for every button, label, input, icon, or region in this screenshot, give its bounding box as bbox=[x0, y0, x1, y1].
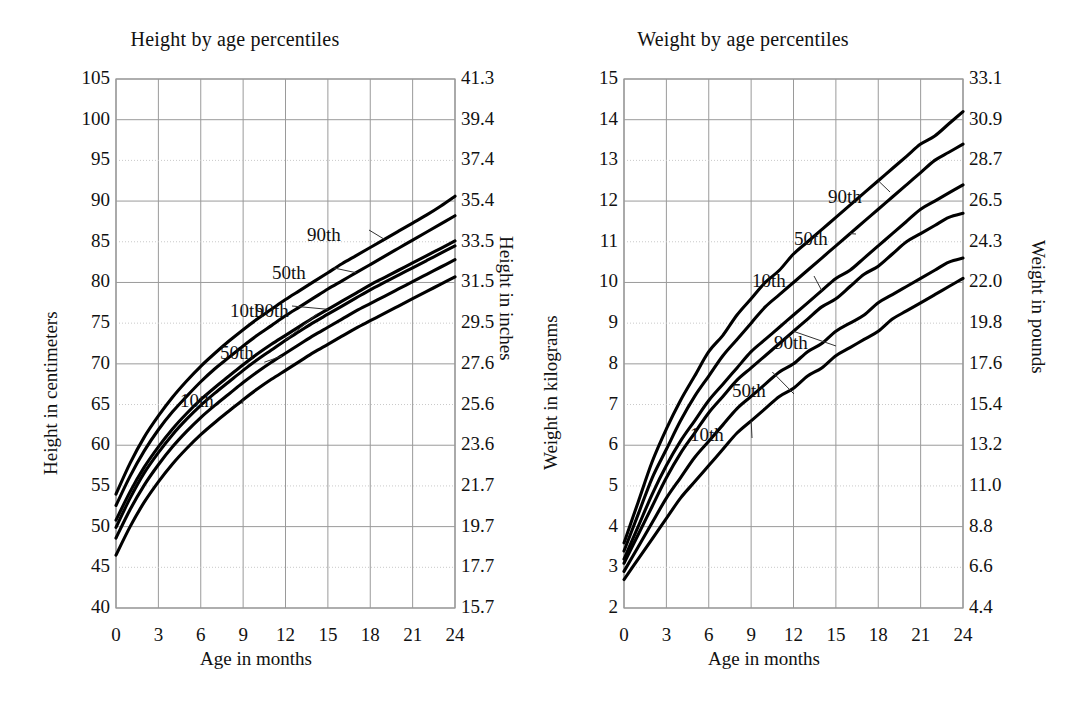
weight-y-left-tick: 3 bbox=[558, 556, 618, 575]
weight-y-left-tick: 2 bbox=[558, 597, 618, 616]
height-y-left-tick: 95 bbox=[50, 149, 110, 168]
height-percentile-label: 90th bbox=[307, 224, 341, 246]
height-y-left-tick: 60 bbox=[50, 434, 110, 453]
height-y-left-tick: 90 bbox=[50, 190, 110, 209]
weight-percentile-label: 10th bbox=[752, 270, 786, 292]
height-y-left-tick: 65 bbox=[50, 394, 110, 413]
weight-y-right-tick: 15.4 bbox=[969, 394, 1039, 413]
height-x-tick: 24 bbox=[430, 625, 480, 644]
height-y-left-tick: 50 bbox=[50, 516, 110, 535]
height-y-left-tick: 105 bbox=[50, 68, 110, 87]
weight-y-left-tick: 13 bbox=[558, 149, 618, 168]
weight-y-right-tick: 4.4 bbox=[969, 597, 1039, 616]
height-percentile-label: 50th bbox=[272, 262, 306, 284]
weight-y-right-tick: 13.2 bbox=[969, 434, 1039, 453]
weight-y-left-tick: 10 bbox=[558, 271, 618, 290]
weight-y-right-tick: 24.3 bbox=[969, 231, 1039, 250]
weight-y-right-tick: 22.0 bbox=[969, 271, 1039, 290]
height-y-left-tick: 40 bbox=[50, 597, 110, 616]
weight-y-left-tick: 4 bbox=[558, 516, 618, 535]
weight-y-right-tick: 26.5 bbox=[969, 190, 1039, 209]
weight-percentile-label: 50th bbox=[732, 380, 766, 402]
weight-y-left-tick: 11 bbox=[558, 231, 618, 250]
weight-y-right-tick: 8.8 bbox=[969, 516, 1039, 535]
weight-y-left-tick: 12 bbox=[558, 190, 618, 209]
weight-x-axis-title: Age in months bbox=[708, 648, 820, 670]
weight-y-right-tick: 28.7 bbox=[969, 149, 1039, 168]
weight-percentile-label: 90th bbox=[774, 332, 808, 354]
weight-chart-panel: Weight by age percentiles Weight in kilo… bbox=[508, 0, 1090, 716]
growth-charts-figure: Height by age percentiles Height in cent… bbox=[0, 0, 1090, 716]
height-y-left-tick: 70 bbox=[50, 353, 110, 372]
height-chart-panel: Height by age percentiles Height in cent… bbox=[0, 0, 545, 716]
weight-y-left-tick: 15 bbox=[558, 68, 618, 87]
weight-y-right-tick: 11.0 bbox=[969, 475, 1039, 494]
weight-y-right-tick: 30.9 bbox=[969, 109, 1039, 128]
height-y-left-tick: 55 bbox=[50, 475, 110, 494]
height-percentile-label: 10th bbox=[180, 390, 214, 412]
height-x-axis-title: Age in months bbox=[200, 648, 312, 670]
weight-percentile-label: 10th bbox=[690, 424, 724, 446]
weight-y-left-tick: 8 bbox=[558, 353, 618, 372]
weight-y-left-tick: 9 bbox=[558, 312, 618, 331]
weight-y-right-tick: 33.1 bbox=[969, 68, 1039, 87]
weight-y-left-tick: 7 bbox=[558, 394, 618, 413]
height-percentile-label: 90th bbox=[255, 300, 289, 322]
weight-y-left-tick: 5 bbox=[558, 475, 618, 494]
height-y-left-tick: 75 bbox=[50, 312, 110, 331]
height-percentile-label: 50th bbox=[220, 342, 254, 364]
weight-y-left-tick: 6 bbox=[558, 434, 618, 453]
height-y-left-tick: 45 bbox=[50, 556, 110, 575]
weight-y-right-tick: 6.6 bbox=[969, 556, 1039, 575]
weight-y-right-tick: 19.8 bbox=[969, 312, 1039, 331]
weight-percentile-label: 50th bbox=[794, 228, 828, 250]
weight-x-tick: 24 bbox=[938, 625, 988, 644]
height-y-left-tick: 80 bbox=[50, 271, 110, 290]
weight-y-right-tick: 17.6 bbox=[969, 353, 1039, 372]
weight-percentile-label: 90th bbox=[828, 186, 862, 208]
weight-y-left-tick: 14 bbox=[558, 109, 618, 128]
height-y-left-tick: 100 bbox=[50, 109, 110, 128]
height-y-left-tick: 85 bbox=[50, 231, 110, 250]
